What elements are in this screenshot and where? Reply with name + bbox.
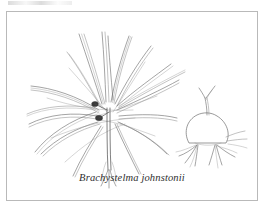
page-root: Brachystelma johnstonii — [0, 0, 272, 213]
plate-frame: Brachystelma johnstonii — [6, 11, 258, 201]
tuber-roots-right — [209, 145, 237, 168]
plant-leaves-left — [27, 86, 103, 177]
scan-artifact — [8, 1, 72, 5]
tuber-roots-left — [176, 145, 198, 167]
tuber-detail — [176, 86, 247, 168]
plant-leaves-right — [115, 64, 185, 174]
plate-caption: Brachystelma johnstonii — [7, 172, 257, 183]
plant-leaves-crossing — [47, 62, 157, 162]
